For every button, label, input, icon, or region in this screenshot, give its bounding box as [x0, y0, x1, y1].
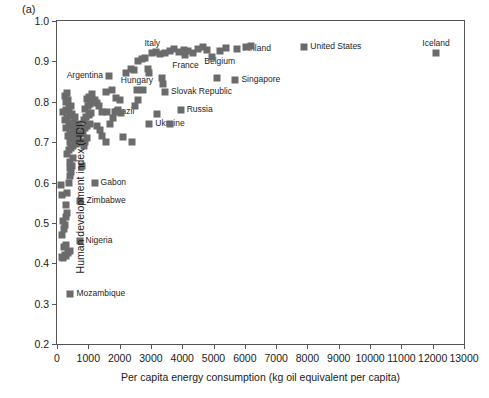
data-point-ukraine[interactable]: [146, 120, 153, 127]
data-point[interactable]: [140, 86, 147, 93]
x-axis-tick: [401, 344, 402, 349]
x-axis-tick-label: 9000: [327, 352, 350, 364]
figure-panel-a: (a) IcelandUnited StatesFinlandSingapore…: [0, 0, 489, 398]
data-point-singapore[interactable]: [232, 76, 239, 83]
y-axis-tick-label: 0.5: [34, 217, 49, 229]
data-point-slovak-republic[interactable]: [162, 88, 169, 95]
data-point[interactable]: [108, 86, 115, 93]
data-point-united-states[interactable]: [301, 44, 308, 51]
y-axis-tick: [52, 102, 57, 103]
data-point[interactable]: [166, 120, 173, 127]
x-axis-tick: [182, 344, 183, 349]
x-axis-tick-label: 2000: [108, 352, 131, 364]
plot-area: IcelandUnited StatesFinlandSingaporeBelg…: [57, 21, 464, 344]
data-point[interactable]: [102, 139, 109, 146]
data-point-russia[interactable]: [177, 106, 184, 113]
data-point[interactable]: [57, 181, 64, 188]
y-axis-tick: [52, 183, 57, 184]
x-axis-tick: [307, 344, 308, 349]
x-axis-tick-label: 8000: [296, 352, 319, 364]
y-axis-tick-label: 0.6: [34, 177, 49, 189]
data-point[interactable]: [64, 209, 71, 216]
data-point[interactable]: [129, 139, 136, 146]
x-axis-tick: [433, 344, 434, 349]
x-axis-tick-label: 4000: [171, 352, 194, 364]
y-axis-tick-label: 0.9: [34, 55, 49, 67]
x-axis-tick-label: 7000: [264, 352, 287, 364]
y-axis-label: Human development index (HDI): [74, 92, 86, 302]
data-point-label: United States: [310, 42, 361, 51]
data-point[interactable]: [102, 88, 109, 95]
y-axis-tick-label: 0.2: [34, 338, 49, 350]
data-point[interactable]: [204, 47, 211, 54]
x-axis-tick-label: 6000: [233, 352, 256, 364]
data-point[interactable]: [160, 80, 167, 87]
data-point[interactable]: [116, 96, 123, 103]
data-point[interactable]: [107, 120, 114, 127]
x-axis-tick: [120, 344, 121, 349]
data-point[interactable]: [64, 189, 71, 196]
x-axis-tick: [151, 344, 152, 349]
data-point-label: Iceland: [422, 39, 449, 48]
data-point-label: Russia: [187, 105, 213, 114]
x-axis-tick: [88, 344, 89, 349]
data-point[interactable]: [63, 242, 70, 249]
data-point[interactable]: [118, 110, 125, 117]
data-point[interactable]: [119, 134, 126, 141]
x-axis-tick-label: 10000: [355, 352, 384, 364]
data-point-label: France: [172, 61, 198, 70]
data-point[interactable]: [109, 114, 116, 121]
x-axis-tick: [464, 344, 465, 349]
data-point-gabon[interactable]: [91, 179, 98, 186]
x-axis-tick-label: 0: [54, 352, 60, 364]
x-axis-tick-label: 5000: [202, 352, 225, 364]
x-axis-tick-label: 1000: [77, 352, 100, 364]
y-axis-tick-label: 0.7: [34, 136, 49, 148]
y-axis-tick: [52, 223, 57, 224]
data-point-argentina[interactable]: [105, 72, 112, 79]
x-axis-tick: [245, 344, 246, 349]
x-axis-label: Per capita energy consumption (kg oil eq…: [56, 371, 465, 383]
y-axis-tick: [52, 61, 57, 62]
x-axis-tick: [57, 344, 58, 349]
data-point[interactable]: [130, 67, 137, 74]
data-point[interactable]: [146, 70, 153, 77]
data-point-finland[interactable]: [234, 46, 241, 53]
y-axis-tick: [52, 21, 57, 22]
x-axis-tick-label: 13000: [449, 352, 478, 364]
data-point[interactable]: [141, 55, 148, 62]
data-point[interactable]: [223, 45, 230, 52]
y-axis-tick-label: 0.3: [34, 298, 49, 310]
data-point-mozambique[interactable]: [67, 290, 74, 297]
data-point-label: Slovak Republic: [171, 87, 232, 96]
x-axis-tick-label: 11000: [387, 352, 415, 364]
data-point[interactable]: [248, 43, 255, 50]
x-axis-tick-label: 3000: [139, 352, 162, 364]
y-axis-tick-label: 0.8: [34, 96, 49, 108]
data-point[interactable]: [154, 110, 161, 117]
x-axis-tick-label: 12000: [418, 352, 447, 364]
data-point-label: Gabon: [101, 178, 127, 187]
panel-letter: (a): [22, 3, 35, 15]
data-point[interactable]: [132, 102, 139, 109]
data-point-label: Italy: [144, 39, 160, 48]
data-point[interactable]: [213, 74, 220, 81]
data-point-label: Singapore: [241, 75, 280, 84]
data-point[interactable]: [88, 110, 95, 117]
data-point-label: Zimbabwe: [86, 196, 125, 205]
y-axis-tick: [52, 304, 57, 305]
data-point[interactable]: [208, 54, 215, 61]
data-point[interactable]: [59, 231, 66, 238]
x-axis-tick: [214, 344, 215, 349]
y-axis-tick-label: 0.4: [34, 257, 49, 269]
y-axis-tick-label: 1.0: [34, 15, 49, 27]
x-axis-tick: [370, 344, 371, 349]
data-point[interactable]: [98, 108, 105, 115]
data-point-label: Argentina: [67, 71, 103, 80]
data-point[interactable]: [64, 89, 71, 96]
data-point-iceland[interactable]: [432, 50, 439, 57]
data-point[interactable]: [62, 201, 69, 208]
data-point-label: Nigeria: [86, 236, 113, 245]
data-point[interactable]: [65, 179, 72, 186]
y-axis-tick: [52, 142, 57, 143]
